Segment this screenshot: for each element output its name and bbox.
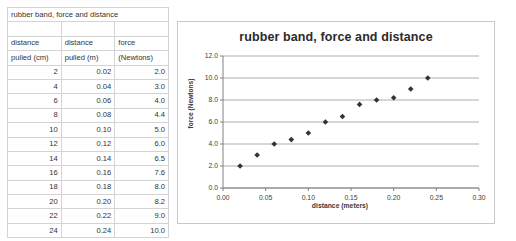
x-tick-label: 0.25 (430, 194, 443, 201)
header-force-line2: (Newtons) (115, 51, 169, 65)
table-row: 6 0.06 4.0 (8, 94, 169, 108)
cell-distance-m: 0.14 (61, 151, 115, 165)
force-distance-table: rubber band, force and distance distance… (7, 7, 169, 238)
x-tick-label: 0.05 (259, 194, 272, 201)
cell-distance-m: 0.22 (61, 209, 115, 223)
table-row: 22 0.22 9.0 (8, 209, 169, 223)
x-tick-label: 0.30 (472, 194, 485, 201)
header-distance-cm-line1: distance (8, 36, 62, 50)
table-header-row-2: pulled (cm) pulled (m) (Newtons) (8, 51, 169, 65)
cell-distance-cm: 4 (8, 79, 62, 93)
cell-force: 9.0 (115, 209, 169, 223)
cell-force: 10.0 (115, 223, 169, 237)
cell-distance-cm: 20 (8, 195, 62, 209)
data-point-marker (374, 97, 380, 103)
cell-force: 4.4 (115, 108, 169, 122)
y-tick-label: 10.0 (205, 74, 218, 81)
table-body: rubber band, force and distance distance… (8, 8, 169, 238)
cell-distance-cm: 14 (8, 151, 62, 165)
cell-force: 5.0 (115, 123, 169, 137)
cell-distance-m: 0.06 (61, 94, 115, 108)
cell-distance-cm: 6 (8, 94, 62, 108)
blank-cell-b (61, 22, 115, 36)
x-tick-label: 0.10 (302, 194, 315, 201)
y-tick-label: 6.0 (209, 118, 219, 125)
table-title-row: rubber band, force and distance (8, 8, 169, 22)
cell-distance-cm: 16 (8, 166, 62, 180)
table-header-row-1: distance distance force (8, 36, 169, 50)
x-tick-label: 0.20 (387, 194, 400, 201)
y-tick-label: 12.0 (205, 52, 218, 59)
chart-panel: rubber band, force and distance force (N… (177, 21, 495, 224)
table-title-cell: rubber band, force and distance (8, 8, 169, 22)
table-row: 10 0.10 5.0 (8, 123, 169, 137)
table-row: 20 0.20 8.2 (8, 195, 169, 209)
cell-force: 8.0 (115, 180, 169, 194)
data-point-marker (340, 114, 346, 120)
data-point-marker (237, 163, 243, 169)
table-row: 18 0.18 8.0 (8, 180, 169, 194)
y-tick-label: 2.0 (209, 162, 219, 169)
y-tick-label: 8.0 (209, 96, 219, 103)
header-distance-cm-line2: pulled (cm) (8, 51, 62, 65)
table-row: 12 0.12 6.0 (8, 137, 169, 151)
chart-plot-area: 0.02.04.06.08.010.012.00.000.050.100.150… (178, 22, 496, 225)
data-point-marker (306, 130, 312, 136)
data-table-panel: rubber band, force and distance distance… (7, 7, 169, 238)
data-point-marker (254, 152, 260, 158)
y-tick-label: 4.0 (209, 140, 219, 147)
table-blank-row (8, 22, 169, 36)
cell-force: 8.2 (115, 195, 169, 209)
table-row: 16 0.16 7.6 (8, 166, 169, 180)
table-row: 8 0.08 4.4 (8, 108, 169, 122)
data-point-marker (288, 137, 294, 143)
header-distance-m-line1: distance (61, 36, 115, 50)
cell-distance-m: 0.04 (61, 79, 115, 93)
x-tick-label: 0.00 (216, 194, 229, 201)
cell-force: 6.5 (115, 151, 169, 165)
table-row: 4 0.04 3.0 (8, 79, 169, 93)
cell-force: 7.6 (115, 166, 169, 180)
data-point-marker (271, 141, 277, 147)
cell-distance-m: 0.18 (61, 180, 115, 194)
cell-distance-cm: 24 (8, 223, 62, 237)
x-tick-label: 0.15 (344, 194, 357, 201)
table-row: 24 0.24 10.0 (8, 223, 169, 237)
cell-distance-m: 0.10 (61, 123, 115, 137)
data-point-marker (425, 75, 431, 81)
cell-distance-cm: 2 (8, 65, 62, 79)
y-tick-label: 0.0 (209, 184, 219, 191)
cell-distance-m: 0.02 (61, 65, 115, 79)
cell-force: 4.0 (115, 94, 169, 108)
cell-force: 3.0 (115, 79, 169, 93)
cell-distance-m: 0.24 (61, 223, 115, 237)
header-distance-m-line2: pulled (m) (61, 51, 115, 65)
cell-distance-cm: 12 (8, 137, 62, 151)
cell-distance-cm: 8 (8, 108, 62, 122)
data-point-marker (323, 119, 329, 125)
cell-force: 6.0 (115, 137, 169, 151)
table-row: 14 0.14 6.5 (8, 151, 169, 165)
cell-distance-m: 0.08 (61, 108, 115, 122)
cell-distance-m: 0.12 (61, 137, 115, 151)
header-force-line1: force (115, 36, 169, 50)
table-row: 2 0.02 2.0 (8, 65, 169, 79)
cell-distance-m: 0.20 (61, 195, 115, 209)
cell-distance-cm: 10 (8, 123, 62, 137)
blank-cell-c (115, 22, 169, 36)
cell-distance-m: 0.16 (61, 166, 115, 180)
data-point-marker (357, 102, 363, 108)
cell-distance-cm: 18 (8, 180, 62, 194)
cell-force: 2.0 (115, 65, 169, 79)
data-point-marker (408, 86, 414, 92)
cell-distance-cm: 22 (8, 209, 62, 223)
blank-cell-a (8, 22, 62, 36)
